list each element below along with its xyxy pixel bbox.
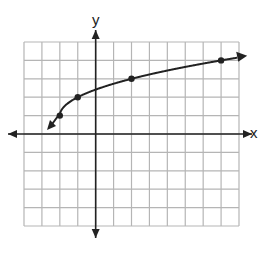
graph — [0, 0, 268, 253]
function-curve — [47, 52, 247, 130]
y-axis-label: y — [92, 12, 100, 27]
x-axis-label: x — [250, 125, 258, 140]
